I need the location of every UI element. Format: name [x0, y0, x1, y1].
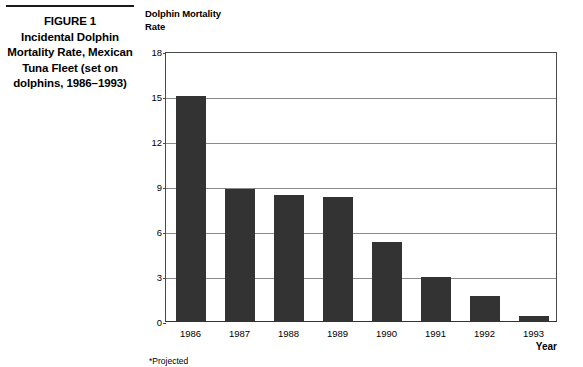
y-axis-title: Dolphin Mortality Rate: [145, 8, 221, 33]
y-tick-label: 9: [157, 183, 162, 193]
caption-top-rule: [6, 5, 134, 7]
y-tick-label: 12: [151, 138, 162, 148]
x-tick-label: 1992: [474, 329, 495, 339]
x-axis-title: Year: [165, 341, 557, 352]
y-axis-title-line-2: Rate: [145, 21, 221, 34]
x-tick-label: 1988: [278, 329, 299, 339]
figure-footnote: *Projected: [149, 357, 188, 366]
caption-line-2: Incidental Dolphin: [2, 30, 138, 46]
bar: [519, 316, 549, 321]
bar: [176, 96, 206, 321]
bar: [323, 197, 353, 321]
caption-line-1: FIGURE 1: [2, 14, 138, 30]
bar-chart: Dolphin Mortality Rate 0369121518 198619…: [143, 0, 583, 367]
bar: [470, 296, 500, 322]
y-axis-title-line-1: Dolphin Mortality: [145, 8, 221, 21]
bar-series: [166, 53, 556, 321]
caption-line-4: Tuna Fleet (set on: [2, 61, 138, 77]
y-tick-label: 3: [157, 273, 162, 283]
plot-area: 0369121518 19861987198819891990199119921…: [165, 52, 557, 322]
caption-line-5: dolphins, 1986–1993): [2, 76, 138, 92]
bar: [421, 277, 451, 321]
x-tick-label: 1986: [180, 329, 201, 339]
y-tick-label: 0: [157, 318, 162, 328]
x-tick-label: 1991: [425, 329, 446, 339]
figure-page: FIGURE 1 Incidental Dolphin Mortality Ra…: [0, 0, 583, 367]
caption-line-3: Mortality Rate, Mexican: [2, 45, 138, 61]
figure-caption-text: FIGURE 1 Incidental Dolphin Mortality Ra…: [2, 14, 138, 92]
bar: [372, 242, 402, 322]
y-tick-mark: [163, 323, 166, 324]
y-tick-label: 15: [151, 93, 162, 103]
x-tick-label: 1993: [523, 329, 544, 339]
bar: [225, 189, 255, 321]
y-tick-label: 6: [157, 228, 162, 238]
y-tick-label: 18: [151, 48, 162, 58]
x-tick-label: 1987: [229, 329, 250, 339]
bar: [274, 195, 304, 321]
x-tick-label: 1989: [327, 329, 348, 339]
figure-caption-block: FIGURE 1 Incidental Dolphin Mortality Ra…: [0, 0, 140, 110]
x-tick-label: 1990: [376, 329, 397, 339]
